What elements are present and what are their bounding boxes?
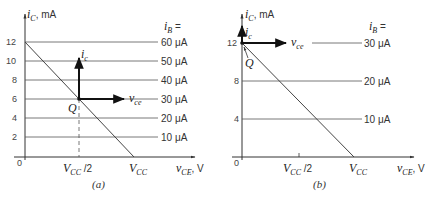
x-tick-vcc: VCC xyxy=(129,161,148,177)
ib-header: iB = xyxy=(164,19,181,35)
q-point-label: Q xyxy=(245,56,254,70)
load-line xyxy=(242,43,354,157)
ic-label: ic xyxy=(245,25,252,41)
y-tick-12: 12 xyxy=(227,38,237,48)
y-tick-0: 0 xyxy=(234,158,239,168)
y-tick-8: 8 xyxy=(234,76,239,86)
x-tick-vcc-half: VCC /2 xyxy=(283,161,313,177)
curve-label-50ua: 50 μA xyxy=(161,56,188,67)
x-tick-vcc: VCC xyxy=(349,161,368,177)
curve-label-30ua: 30 μA xyxy=(161,94,188,105)
panel-b: iC, mA iB = 12 8 4 0 30 μA 20 μA 10 μA i… xyxy=(227,7,425,191)
panel-caption-b: (b) xyxy=(313,178,326,191)
y-tick-0: 0 xyxy=(17,158,22,168)
q-point-marker xyxy=(240,41,244,45)
ic-label: ic xyxy=(81,47,88,63)
curve-label-10ua: 10 μA xyxy=(364,114,391,125)
y-tick-2: 2 xyxy=(12,132,17,142)
y-axis-label: iC, mA xyxy=(27,7,57,23)
panel-caption-a: (a) xyxy=(92,178,105,191)
vce-label: vce xyxy=(129,91,142,107)
x-tick-vcc-half: VCC /2 xyxy=(63,161,93,177)
vce-label: vce xyxy=(291,35,304,51)
y-tick-4: 4 xyxy=(234,114,239,124)
x-axis-label: vCE, V xyxy=(397,161,425,177)
curve-label-60ua: 60 μA xyxy=(161,37,188,48)
y-tick-6: 6 xyxy=(12,94,17,104)
curve-label-20ua: 20 μA xyxy=(364,76,391,87)
bjt-load-line-figure: iC, mA iB = 12 10 8 6 4 2 0 60 μA 50 μA … xyxy=(0,0,439,200)
curve-label-20ua: 20 μA xyxy=(161,113,188,124)
curve-label-40ua: 40 μA xyxy=(161,75,188,86)
curve-label-30ua: 30 μA xyxy=(364,38,391,49)
q-point-marker xyxy=(77,97,81,101)
q-point-label: Q xyxy=(68,101,77,115)
panel-a: iC, mA iB = 12 10 8 6 4 2 0 60 μA 50 μA … xyxy=(6,7,204,191)
x-axis-label: vCE, V xyxy=(176,161,204,177)
y-tick-12: 12 xyxy=(6,37,16,47)
y-tick-10: 10 xyxy=(6,56,16,66)
y-tick-4: 4 xyxy=(12,113,17,123)
y-axis-label: iC, mA xyxy=(245,7,275,23)
curve-label-10ua: 10 μA xyxy=(161,132,188,143)
ib-header: iB = xyxy=(369,19,386,35)
y-tick-8: 8 xyxy=(12,75,17,85)
